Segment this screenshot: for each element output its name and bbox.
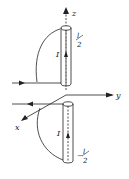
z-axis-label: z [71,9,77,18]
y-axis [66,93,114,98]
upper-length-denominator: 2 [76,41,82,49]
lower-length-denominator: 2 [82,157,88,165]
feed-arrow-upper [19,81,25,86]
x-axis [21,95,66,121]
y-axis-label: y [115,91,121,100]
x-axis-label: x [15,123,20,132]
upper-conductor [61,26,71,86]
upper-current-label: I [55,50,60,59]
lower-current-label: I [56,129,61,138]
lower-conductor [63,102,73,163]
feed-arrow-lower [27,102,33,107]
dipole-antenna-diagram: z I l 2 y x I − l 2 [0,0,129,179]
